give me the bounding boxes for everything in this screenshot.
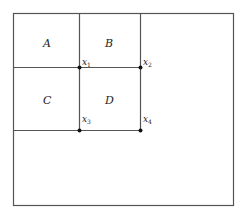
region-label-a: A — [42, 37, 51, 50]
region-label-c: C — [43, 94, 52, 107]
point-label-x4: x4 — [143, 114, 152, 125]
point-x4 — [139, 129, 143, 133]
point-label-x2: x2 — [143, 57, 152, 68]
point-x2 — [139, 66, 143, 70]
point-label-x1: x1 — [82, 57, 91, 68]
region-label-b: B — [104, 37, 113, 50]
point-label-x3: x3 — [82, 114, 91, 125]
point-x3 — [78, 129, 82, 133]
region-label-d: D — [104, 94, 114, 107]
region-diagram: A B C D x1 x2 x3 x4 — [0, 0, 243, 216]
point-x1 — [78, 66, 82, 70]
